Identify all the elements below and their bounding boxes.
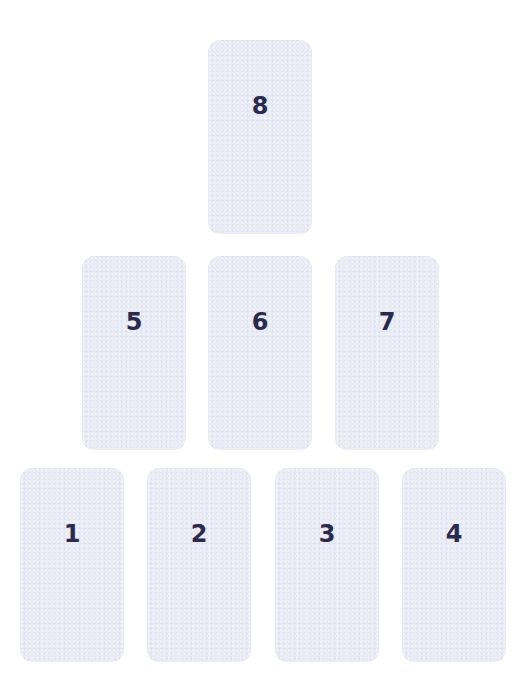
card-position-3[interactable]: 3 (275, 468, 379, 662)
card-number-label: 1 (20, 522, 124, 546)
card-number-label: 6 (208, 310, 312, 334)
card-position-6[interactable]: 6 (208, 256, 312, 450)
card-number-label: 2 (147, 522, 251, 546)
card-position-4[interactable]: 4 (402, 468, 506, 662)
card-spread-diagram: 8 5 6 7 1 2 3 4 (0, 0, 530, 694)
card-number-label: 3 (275, 522, 379, 546)
card-number-label: 7 (335, 310, 439, 334)
card-position-1[interactable]: 1 (20, 468, 124, 662)
card-position-2[interactable]: 2 (147, 468, 251, 662)
card-number-label: 8 (208, 94, 312, 118)
card-position-7[interactable]: 7 (335, 256, 439, 450)
card-position-5[interactable]: 5 (82, 256, 186, 450)
card-position-8[interactable]: 8 (208, 40, 312, 234)
card-number-label: 5 (82, 310, 186, 334)
card-number-label: 4 (402, 522, 506, 546)
